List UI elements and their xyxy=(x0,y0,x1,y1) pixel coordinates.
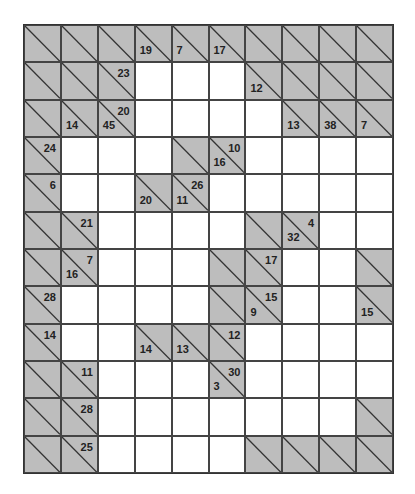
down-clue: 20 xyxy=(140,195,152,206)
entry-cell[interactable] xyxy=(282,249,319,286)
entry-cell[interactable] xyxy=(356,137,393,174)
entry-cell[interactable] xyxy=(172,100,209,137)
entry-cell[interactable] xyxy=(319,361,356,398)
across-clue: 20 xyxy=(117,106,129,117)
entry-cell[interactable] xyxy=(98,249,135,286)
entry-cell[interactable] xyxy=(356,212,393,249)
entry-cell[interactable] xyxy=(282,286,319,323)
clue-cell: 6 xyxy=(24,174,61,211)
down-clue: 12 xyxy=(250,83,262,94)
block-cell xyxy=(245,25,282,62)
entry-cell[interactable] xyxy=(172,212,209,249)
entry-cell[interactable] xyxy=(245,398,282,435)
entry-cell[interactable] xyxy=(172,62,209,99)
entry-cell[interactable] xyxy=(135,361,172,398)
entry-cell[interactable] xyxy=(98,361,135,398)
entry-cell[interactable] xyxy=(356,324,393,361)
block-cell xyxy=(319,62,356,99)
entry-cell[interactable] xyxy=(135,249,172,286)
entry-cell[interactable] xyxy=(61,286,98,323)
diagonal-divider-icon xyxy=(25,250,60,285)
entry-cell[interactable] xyxy=(245,361,282,398)
entry-cell[interactable] xyxy=(135,436,172,473)
block-cell xyxy=(282,25,319,62)
entry-cell[interactable] xyxy=(135,137,172,174)
entry-cell[interactable] xyxy=(172,361,209,398)
entry-cell[interactable] xyxy=(245,324,282,361)
down-clue: 32 xyxy=(287,232,299,243)
diagonal-divider-icon xyxy=(246,26,281,61)
entry-cell[interactable] xyxy=(135,62,172,99)
entry-cell[interactable] xyxy=(98,286,135,323)
entry-cell[interactable] xyxy=(135,212,172,249)
block-cell xyxy=(282,62,319,99)
entry-cell[interactable] xyxy=(356,361,393,398)
entry-cell[interactable] xyxy=(98,436,135,473)
across-clue: 17 xyxy=(265,255,277,266)
diagonal-divider-icon xyxy=(357,250,392,285)
diagonal-divider-icon xyxy=(25,399,60,434)
entry-cell[interactable] xyxy=(61,324,98,361)
entry-cell[interactable] xyxy=(98,398,135,435)
entry-cell[interactable] xyxy=(172,398,209,435)
entry-cell[interactable] xyxy=(172,249,209,286)
down-clue: 45 xyxy=(103,120,115,131)
diagonal-divider-icon xyxy=(283,63,318,98)
entry-cell[interactable] xyxy=(98,324,135,361)
diagonal-divider-icon xyxy=(210,287,245,322)
entry-cell[interactable] xyxy=(282,361,319,398)
clue-cell: 13 xyxy=(282,100,319,137)
entry-cell[interactable] xyxy=(319,249,356,286)
entry-cell[interactable] xyxy=(319,286,356,323)
entry-cell[interactable] xyxy=(61,137,98,174)
entry-cell[interactable] xyxy=(98,212,135,249)
diagonal-divider-icon xyxy=(210,250,245,285)
entry-cell[interactable] xyxy=(98,137,135,174)
entry-cell[interactable] xyxy=(319,137,356,174)
down-clue: 13 xyxy=(287,120,299,131)
entry-cell[interactable] xyxy=(135,286,172,323)
entry-cell[interactable] xyxy=(282,324,319,361)
entry-cell[interactable] xyxy=(209,436,246,473)
down-clue: 16 xyxy=(214,157,226,168)
down-clue: 3 xyxy=(214,381,220,392)
entry-cell[interactable] xyxy=(245,137,282,174)
across-clue: 28 xyxy=(81,404,93,415)
entry-cell[interactable] xyxy=(319,324,356,361)
entry-cell[interactable] xyxy=(209,100,246,137)
block-cell xyxy=(24,212,61,249)
entry-cell[interactable] xyxy=(135,398,172,435)
entry-cell[interactable] xyxy=(245,100,282,137)
entry-cell[interactable] xyxy=(282,398,319,435)
block-cell xyxy=(24,436,61,473)
down-clue: 9 xyxy=(250,307,256,318)
entry-cell[interactable] xyxy=(172,286,209,323)
clue-cell: 432 xyxy=(282,212,319,249)
down-clue: 7 xyxy=(361,120,367,131)
entry-cell[interactable] xyxy=(356,174,393,211)
entry-cell[interactable] xyxy=(135,100,172,137)
clue-cell: 21 xyxy=(61,212,98,249)
block-cell xyxy=(24,398,61,435)
entry-cell[interactable] xyxy=(282,137,319,174)
clue-cell: 14 xyxy=(61,100,98,137)
block-cell xyxy=(245,436,282,473)
clue-cell: 303 xyxy=(209,361,246,398)
entry-cell[interactable] xyxy=(61,174,98,211)
entry-cell[interactable] xyxy=(319,174,356,211)
entry-cell[interactable] xyxy=(209,398,246,435)
entry-cell[interactable] xyxy=(282,174,319,211)
entry-cell[interactable] xyxy=(98,174,135,211)
entry-cell[interactable] xyxy=(209,62,246,99)
entry-cell[interactable] xyxy=(209,174,246,211)
entry-cell[interactable] xyxy=(172,436,209,473)
entry-cell[interactable] xyxy=(319,212,356,249)
block-cell xyxy=(98,25,135,62)
clue-cell: 19 xyxy=(135,25,172,62)
down-clue: 38 xyxy=(324,120,336,131)
block-cell xyxy=(356,436,393,473)
entry-cell[interactable] xyxy=(319,398,356,435)
clue-cell: 2045 xyxy=(98,100,135,137)
entry-cell[interactable] xyxy=(245,174,282,211)
entry-cell[interactable] xyxy=(209,212,246,249)
